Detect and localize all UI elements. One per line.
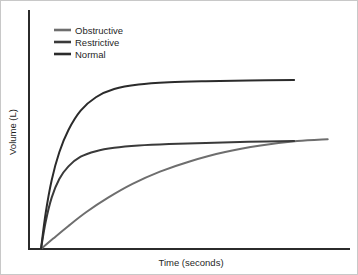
legend-item-1: Restrictive [54, 37, 119, 48]
chart-figure: Obstructive Restrictive Normal Volume (L… [0, 0, 358, 275]
legend-label-restrictive: Restrictive [75, 37, 119, 48]
series-line-restrictive [41, 141, 294, 249]
legend-label-obstructive: Obstructive [75, 25, 123, 36]
chart-legend: Obstructive Restrictive Normal [54, 25, 123, 60]
legend-item-0: Obstructive [54, 25, 123, 36]
series-line-normal [41, 80, 294, 249]
legend-item-2: Normal [54, 49, 106, 60]
legend-label-normal: Normal [75, 49, 106, 60]
y-axis-label: Volume (L) [7, 109, 18, 155]
spirometry-volume-time-chart: Obstructive Restrictive Normal Volume (L… [1, 1, 358, 275]
x-axis-label: Time (seconds) [158, 257, 223, 268]
